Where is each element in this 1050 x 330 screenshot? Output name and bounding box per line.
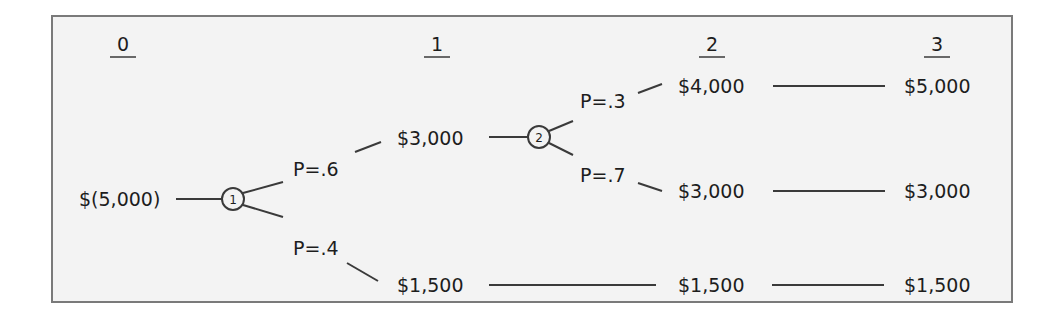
period3-cash-flow-5000: $5,000 (904, 75, 970, 97)
period-header-0: 0 (117, 33, 129, 55)
chance-node-1: 1 (222, 188, 244, 210)
diagram-frame (52, 16, 1012, 302)
period-header-2: 2 (706, 33, 718, 55)
period1-cash-flow-1500: $1,500 (397, 274, 463, 296)
period2-cash-flow-4000: $4,000 (678, 75, 744, 97)
decision-tree-diagram: 0 1 2 3 $(5,000) 1 P=.6 P=.4 $3,000 $1,5… (0, 0, 1050, 330)
period3-cash-flow-3000: $3,000 (904, 180, 970, 202)
period2-cash-flow-1500: $1,500 (678, 274, 744, 296)
probability-label-p03: P=.3 (580, 90, 626, 112)
period-header-1: 1 (431, 33, 443, 55)
period2-cash-flow-3000: $3,000 (678, 180, 744, 202)
chance-node-2-number: 2 (535, 131, 543, 145)
period-header-3: 3 (931, 33, 943, 55)
probability-label-p04: P=.4 (293, 237, 339, 259)
probability-label-p07: P=.7 (580, 164, 626, 186)
probability-label-p06: P=.6 (293, 158, 339, 180)
period1-cash-flow-3000: $3,000 (397, 127, 463, 149)
initial-outlay-label: $(5,000) (79, 188, 160, 210)
chance-node-1-number: 1 (229, 193, 237, 207)
period3-cash-flow-1500: $1,500 (904, 274, 970, 296)
chance-node-2: 2 (528, 126, 550, 148)
